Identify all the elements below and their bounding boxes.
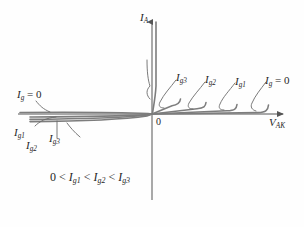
- leader-on-state: [147, 60, 150, 99]
- leader-lines-group: [35, 60, 266, 138]
- thyristor-vi-characteristic-figure: IA VAK 0 Ig = 0 Ig1 Ig2 Ig3 Ig3 Ig2 Ig1 …: [0, 0, 304, 227]
- origin-label: 0: [156, 116, 161, 127]
- gate-current-inequality: 0 < Ig1 < Ig2 < Ig3: [50, 170, 130, 185]
- leader-forward-ig2: [188, 82, 205, 109]
- axis-label-anode-cathode-voltage: VAK: [269, 116, 285, 130]
- label-forward-ig2: Ig2: [205, 73, 216, 87]
- label-reverse-ig3: Ig3: [49, 132, 60, 146]
- label-forward-ig-zero: Ig = 0: [265, 74, 290, 88]
- label-reverse-ig1: Ig1: [14, 126, 25, 140]
- curve-on-state-branch: [153, 22, 157, 113]
- leader-reverse-ig0: [36, 101, 50, 112]
- forward-characteristic-curves: [152, 22, 269, 114]
- label-reverse-ig2: Ig2: [26, 139, 37, 153]
- plot-canvas: [0, 0, 304, 227]
- leader-reverse-ig3: [67, 123, 80, 137]
- label-forward-ig3: Ig3: [176, 71, 187, 85]
- label-reverse-ig-zero: Ig = 0: [17, 88, 42, 102]
- leader-forward-ig1: [219, 83, 235, 110]
- axis-label-anode-current: IA: [140, 11, 148, 25]
- leader-forward-ig3: [159, 80, 176, 108]
- leader-forward-ig0: [251, 82, 266, 111]
- label-forward-ig1: Ig1: [235, 75, 246, 89]
